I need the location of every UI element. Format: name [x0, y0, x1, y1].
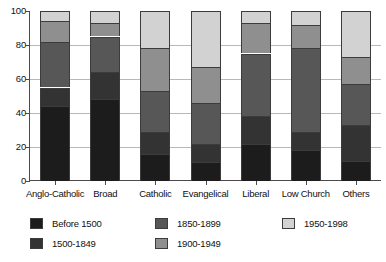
legend-label: 1950-1998: [304, 218, 348, 229]
legend-item[interactable]: 1850-1899: [155, 218, 221, 229]
y-tick-label: 20: [0, 142, 26, 152]
y-tick-label: 40: [0, 108, 26, 118]
x-tick-mark: [105, 181, 106, 185]
bar-evangelical[interactable]: [191, 11, 221, 181]
bar-segment: [140, 11, 170, 48]
bar-segment: [140, 132, 170, 154]
legend-item[interactable]: Before 1500: [30, 218, 102, 229]
bar-segment: [341, 11, 371, 57]
bar-catholic[interactable]: [140, 11, 170, 181]
stacked-bar-chart: 020406080100 Anglo-CatholicBroadCatholic…: [0, 0, 386, 262]
bar-segment: [140, 154, 170, 181]
legend-label: 1500-1849: [52, 238, 96, 249]
bar-segment: [40, 106, 70, 181]
bar-segment: [191, 67, 221, 103]
plot-area: 020406080100 Anglo-CatholicBroadCatholic…: [0, 0, 386, 205]
legend-swatch-icon: [155, 238, 168, 249]
bar-segment: [291, 48, 321, 131]
bar-segment: [40, 88, 70, 107]
bar-segment: [90, 37, 120, 73]
legend-item[interactable]: 1900-1949: [155, 238, 221, 249]
x-tick-label: Catholic: [139, 188, 171, 199]
bar-low-church[interactable]: [291, 11, 321, 181]
y-tick-mark: [25, 181, 30, 182]
legend-swatch-icon: [30, 218, 43, 229]
bar-segment: [140, 48, 170, 91]
legend-label: 1850-1899: [177, 218, 221, 229]
legend-swatch-icon: [282, 218, 295, 229]
bar-broad[interactable]: [90, 11, 120, 181]
x-tick-label: Low Church: [282, 188, 330, 199]
bar-segment: [341, 84, 371, 125]
x-tick-mark: [356, 181, 357, 185]
y-tick-label: 0: [0, 176, 26, 186]
y-tick-label: 80: [0, 40, 26, 50]
bar-segment: [40, 11, 70, 21]
bar-others[interactable]: [341, 11, 371, 181]
x-tick-label: Liberal: [242, 188, 269, 199]
bar-segment: [191, 11, 221, 67]
bar-segment: [191, 162, 221, 181]
bar-segment: [90, 11, 120, 23]
y-tick-label: 60: [0, 74, 26, 84]
chart-legend: Before 15001500-18491850-18991900-194919…: [0, 212, 386, 262]
x-tick-label: Others: [342, 188, 369, 199]
x-tick-label: Evangelical: [183, 188, 229, 199]
x-tick-mark: [306, 181, 307, 185]
bar-segment: [241, 116, 271, 143]
legend-swatch-icon: [30, 238, 43, 249]
bar-segment: [291, 25, 321, 49]
bar-segment: [341, 161, 371, 181]
bar-segment: [291, 132, 321, 151]
y-axis-tick-labels: 020406080100: [0, 0, 26, 205]
bar-segment: [90, 72, 120, 99]
bar-segment: [241, 54, 271, 117]
x-tick-mark: [206, 181, 207, 185]
x-tick-label: Broad: [93, 188, 117, 199]
bar-segment: [241, 144, 271, 181]
bar-segment: [90, 23, 120, 37]
legend-item[interactable]: 1500-1849: [30, 238, 96, 249]
bar-anglo-catholic[interactable]: [40, 11, 70, 181]
bar-segment: [341, 57, 371, 84]
x-tick-mark: [256, 181, 257, 185]
bar-liberal[interactable]: [241, 11, 271, 181]
legend-label: 1900-1949: [177, 238, 221, 249]
bar-segment: [90, 99, 120, 181]
x-tick-label: Anglo-Catholic: [26, 188, 84, 199]
bar-segment: [140, 91, 170, 132]
legend-label: Before 1500: [52, 218, 102, 229]
bar-segment: [40, 21, 70, 41]
bar-segment: [341, 125, 371, 161]
bar-segment: [40, 42, 70, 88]
bar-segment: [291, 11, 321, 25]
y-tick-label: 100: [0, 6, 26, 16]
bar-segment: [241, 23, 271, 54]
legend-item[interactable]: 1950-1998: [282, 218, 348, 229]
legend-swatch-icon: [155, 218, 168, 229]
bar-segment: [241, 11, 271, 23]
x-tick-mark: [155, 181, 156, 185]
bar-segment: [191, 103, 221, 144]
x-tick-mark: [55, 181, 56, 185]
bar-segment: [191, 144, 221, 163]
bars-container: [30, 11, 381, 181]
bar-segment: [291, 150, 321, 181]
